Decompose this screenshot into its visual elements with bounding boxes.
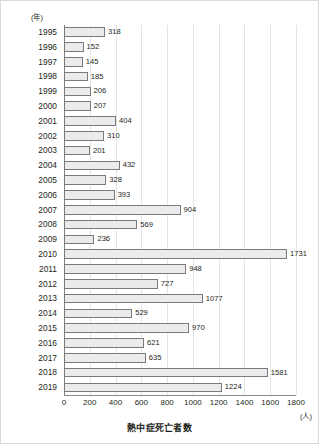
bar-value-label: 948 [189, 263, 202, 275]
bar-value-label: 635 [149, 352, 162, 364]
bar-value-label: 1581 [271, 367, 288, 379]
y-axis-label-2001: 2001 [38, 114, 57, 129]
bar-row: 727 [64, 277, 296, 292]
bar-value-label: 310 [107, 130, 120, 142]
y-axis-label-2016: 2016 [38, 336, 57, 351]
y-axis-label-2000: 2000 [38, 99, 57, 114]
bar-value-label: 1731 [290, 248, 307, 260]
bar [64, 190, 115, 200]
bar [64, 161, 120, 171]
bar-value-label: 328 [109, 174, 122, 186]
bar [64, 146, 90, 156]
bar-row: 1731 [64, 247, 296, 262]
gridline [296, 25, 297, 395]
bar-value-label: 404 [119, 115, 132, 127]
bar [64, 294, 203, 304]
y-axis-label-2013: 2013 [38, 291, 57, 306]
y-axis-label-2012: 2012 [38, 277, 57, 292]
bar-value-label: 185 [91, 71, 104, 83]
x-tick-800: 800 [160, 397, 173, 409]
bar-value-label: 236 [97, 233, 110, 245]
bar [64, 249, 287, 259]
x-tick-1800: 1800 [287, 397, 305, 409]
x-axis-tick-labels: 020040060080010001200140016001800 [64, 397, 296, 409]
y-axis-label-2006: 2006 [38, 188, 57, 203]
bar-value-label: 207 [94, 100, 107, 112]
bar [64, 101, 91, 111]
bar [64, 57, 83, 67]
bar-value-label: 206 [94, 85, 107, 97]
bar-row: 236 [64, 232, 296, 247]
bar [64, 42, 84, 52]
x-axis-title: 熱中症死亡者数 [1, 422, 318, 434]
bar-row: 185 [64, 69, 296, 84]
bar [64, 383, 222, 393]
y-axis-unit-label: (年) [31, 13, 43, 23]
bar [64, 368, 268, 378]
bar-row: 948 [64, 262, 296, 277]
bar-row: 904 [64, 203, 296, 218]
y-axis-label-2018: 2018 [38, 365, 57, 380]
y-axis-label-1998: 1998 [38, 69, 57, 84]
bar-rows: 3181521451852062074043102014323283939045… [64, 25, 296, 395]
x-tick-1000: 1000 [184, 397, 202, 409]
y-axis-label-1997: 1997 [38, 55, 57, 70]
bar [64, 116, 116, 126]
bar [64, 175, 106, 185]
y-axis-label-1999: 1999 [38, 84, 57, 99]
y-axis-label-2010: 2010 [38, 247, 57, 262]
x-tick-0: 0 [62, 397, 66, 409]
plot-area: 3181521451852062074043102014323283939045… [64, 25, 296, 395]
bar-value-label: 904 [184, 204, 197, 216]
bar [64, 309, 132, 319]
x-tick-1400: 1400 [236, 397, 254, 409]
y-axis-label-1996: 1996 [38, 40, 57, 55]
bar [64, 27, 105, 37]
y-axis-label-2004: 2004 [38, 158, 57, 173]
y-axis-label-2014: 2014 [38, 306, 57, 321]
y-axis-label-2003: 2003 [38, 143, 57, 158]
bar-row: 201 [64, 143, 296, 158]
bar-row: 1581 [64, 365, 296, 380]
bar-row: 432 [64, 158, 296, 173]
bar-row: 404 [64, 114, 296, 129]
bar-value-label: 152 [87, 41, 100, 53]
bar-value-label: 318 [108, 26, 121, 38]
bar-row: 1077 [64, 291, 296, 306]
bar [64, 279, 158, 289]
bar-row: 145 [64, 55, 296, 70]
bar-row: 318 [64, 25, 296, 40]
bar [64, 353, 146, 363]
x-tick-1200: 1200 [210, 397, 228, 409]
bar-value-label: 529 [135, 307, 148, 319]
y-axis-label-2008: 2008 [38, 217, 57, 232]
y-axis-label-2002: 2002 [38, 129, 57, 144]
heatstroke-deaths-bar-chart: (年) 199519961997199819992000200120022003… [0, 0, 319, 444]
y-axis-label-2007: 2007 [38, 203, 57, 218]
bar [64, 235, 94, 245]
bar-row: 621 [64, 336, 296, 351]
y-axis-label-2011: 2011 [39, 262, 57, 277]
bar-row: 393 [64, 188, 296, 203]
x-tick-600: 600 [135, 397, 148, 409]
bar [64, 323, 189, 333]
bar-value-label: 970 [192, 322, 205, 334]
bar-row: 529 [64, 306, 296, 321]
bar-value-label: 145 [86, 56, 99, 68]
bar-value-label: 621 [147, 337, 160, 349]
y-axis-label-2009: 2009 [38, 232, 57, 247]
bar-value-label: 569 [140, 219, 153, 231]
bar-row: 152 [64, 40, 296, 55]
bar-value-label: 727 [161, 278, 174, 290]
bar [64, 205, 181, 215]
bar [64, 220, 137, 230]
bar-value-label: 1077 [206, 293, 223, 305]
y-axis-label-1995: 1995 [38, 25, 57, 40]
x-axis-unit-label: (人) [300, 412, 312, 422]
bar [64, 72, 88, 82]
x-axis-line [64, 395, 296, 396]
bar [64, 131, 104, 141]
bar [64, 87, 91, 97]
bar-row: 635 [64, 351, 296, 366]
bar-value-label: 201 [93, 145, 106, 157]
